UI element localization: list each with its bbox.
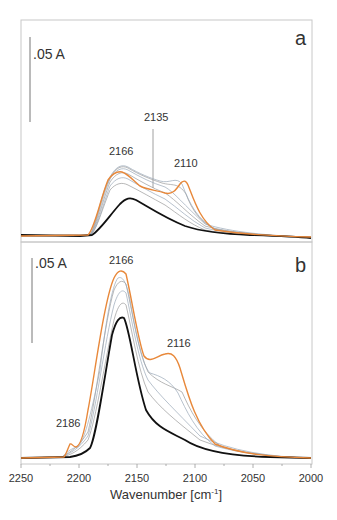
panel-a: .05 A a 2166 2135 2110	[21, 27, 311, 238]
scale-label-b: .05 A	[35, 255, 68, 271]
xtick-2050: 2050	[241, 472, 265, 484]
scale-label-a: .05 A	[33, 46, 66, 62]
annotation-2116-b: 2116	[167, 337, 191, 349]
x-axis-label: Wavenumber [cm-1]	[110, 487, 222, 502]
panel-a-curves	[21, 166, 311, 238]
ir-spectra-figure: .05 A a 2166 2135 2110 .05 A b 2166 2116…	[0, 0, 337, 520]
x-axis-tick-labels: 2250 2200 2150 2100 2050 2000	[9, 472, 323, 484]
annotation-2166-b: 2166	[109, 254, 133, 266]
panel-b-curves	[21, 271, 311, 458]
xtick-2150: 2150	[125, 472, 149, 484]
x-axis-ticks	[21, 464, 311, 468]
panel-label-b: b	[295, 254, 306, 276]
annotation-2166-a: 2166	[109, 145, 133, 157]
panel-label-a: a	[295, 27, 307, 49]
xtick-2200: 2200	[67, 472, 91, 484]
xtick-2250: 2250	[9, 472, 33, 484]
annotation-2135-a: 2135	[144, 111, 168, 123]
annotation-2110-a: 2110	[174, 157, 198, 169]
panel-b: .05 A b 2166 2116 2186	[21, 254, 311, 458]
xtick-2000: 2000	[299, 472, 323, 484]
annotation-2186-b: 2186	[56, 417, 80, 429]
xtick-2100: 2100	[183, 472, 207, 484]
